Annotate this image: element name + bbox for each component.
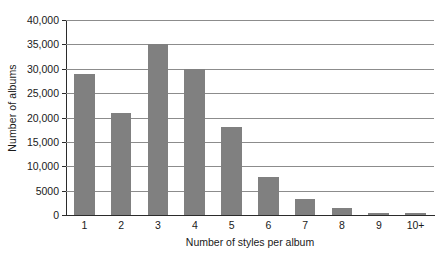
y-axis-tick-mark: [62, 69, 66, 70]
y-axis-tick-label: 40,000: [27, 14, 59, 26]
bar: [74, 74, 95, 215]
y-axis-tick-mark: [62, 44, 66, 45]
x-axis-tick-label: 10+: [407, 219, 425, 231]
y-axis-tick-mark: [62, 166, 66, 167]
y-axis-tick-mark: [62, 118, 66, 119]
y-axis-tick-label: 10,000: [27, 160, 59, 172]
plot-area: [66, 20, 434, 215]
bar: [184, 69, 205, 215]
y-axis-tick-mark: [62, 191, 66, 192]
bar-chart-figure: Number of albums 0500010,00015,00020,000…: [0, 0, 448, 261]
x-axis-tick-label: 7: [302, 219, 308, 231]
x-axis-tick-label: 1: [81, 219, 87, 231]
y-axis-tick-labels: 0500010,00015,00020,00025,00030,00035,00…: [18, 20, 63, 215]
y-axis-tick-label: 0: [53, 209, 59, 221]
y-axis-title-label: Number of albums: [6, 64, 18, 151]
x-axis-tick-label: 9: [376, 219, 382, 231]
x-axis-tick-label: 3: [155, 219, 161, 231]
y-axis-tick-mark: [62, 142, 66, 143]
y-axis-tick-label: 30,000: [27, 63, 59, 75]
bar: [111, 113, 132, 215]
bar: [258, 177, 279, 215]
y-axis-tick-label: 25,000: [27, 87, 59, 99]
x-axis-tick-labels: 12345678910+: [66, 219, 434, 235]
y-axis-tick-mark: [62, 93, 66, 94]
bar: [295, 199, 316, 215]
y-axis-tick-label: 5000: [36, 185, 59, 197]
bar: [148, 44, 169, 215]
y-axis-tick-label: 35,000: [27, 38, 59, 50]
x-axis-tick-label: 6: [265, 219, 271, 231]
y-axis-tick-label: 20,000: [27, 112, 59, 124]
bars-group: [66, 20, 434, 215]
x-axis-tick-label: 8: [339, 219, 345, 231]
bar: [221, 127, 242, 215]
y-axis-tick-mark: [62, 20, 66, 21]
y-axis-tick-label: 15,000: [27, 136, 59, 148]
x-axis-tick-label: 5: [229, 219, 235, 231]
y-axis-tick-mark: [62, 215, 66, 216]
x-axis-title: Number of styles per album: [66, 236, 434, 248]
x-axis-tick-label: 2: [118, 219, 124, 231]
bar: [332, 208, 353, 215]
x-axis-line: [66, 215, 435, 216]
x-axis-tick-label: 4: [192, 219, 198, 231]
